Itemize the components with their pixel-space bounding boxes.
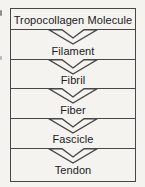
level-label: Tendon	[11, 164, 135, 176]
level-label: Fibril	[11, 74, 135, 86]
chevron-down-arrow-icon	[48, 88, 98, 104]
level-label: Fiber	[11, 104, 135, 116]
level-label: Filament	[11, 45, 135, 57]
chevron-down-arrow-icon	[48, 148, 98, 164]
flow-diagram-frame: Tropocollagen Molecule Filament Fibril F…	[10, 8, 136, 182]
scan-artifact-tick	[0, 10, 2, 16]
scan-artifact-tick	[0, 56, 2, 60]
level-row-filament: Filament	[11, 29, 135, 59]
chevron-down-arrow-icon	[48, 59, 98, 75]
level-row-fiber: Fiber	[11, 88, 135, 118]
level-row-fascicle: Fascicle	[11, 118, 135, 148]
level-row-fibril: Fibril	[11, 59, 135, 88]
level-row-tendon: Tendon	[11, 148, 135, 180]
level-row-tropocollagen: Tropocollagen Molecule	[11, 9, 135, 29]
level-label: Fascicle	[11, 133, 135, 145]
chevron-down-arrow-icon	[48, 118, 98, 134]
chevron-down-arrow-icon	[48, 29, 98, 45]
level-label: Tropocollagen Molecule	[11, 14, 135, 26]
